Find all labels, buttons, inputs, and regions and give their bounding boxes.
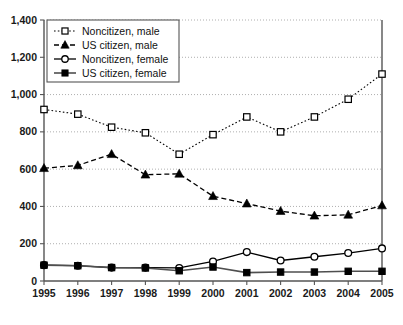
marker-filled-square — [62, 70, 68, 76]
y-tick-label: 800 — [19, 125, 37, 137]
marker-open-square — [41, 106, 47, 112]
marker-filled-square — [41, 262, 47, 268]
marker-filled-square — [108, 264, 114, 270]
chart-legend: Noncitizen, maleUS citizen, maleNoncitiz… — [47, 20, 179, 82]
marker-open-circle — [379, 245, 386, 252]
y-tick-label: 600 — [19, 163, 37, 175]
marker-filled-square — [345, 268, 351, 274]
legend-item-label: US citizen, male — [82, 39, 158, 51]
y-tick-label: 1,000 — [11, 88, 37, 100]
marker-open-square — [345, 96, 351, 102]
x-axis-tick-labels: 1995199619971998199920002001200220032004… — [32, 287, 394, 299]
x-tick-label: 2004 — [337, 287, 361, 299]
x-tick-label: 1998 — [134, 287, 158, 299]
marker-filled-square — [142, 265, 148, 271]
marker-open-square — [311, 114, 317, 120]
marker-open-circle — [311, 253, 318, 260]
marker-open-square — [277, 129, 283, 135]
legend-item-label: US citizen, female — [82, 67, 167, 79]
marker-open-square — [210, 131, 216, 137]
marker-open-circle — [62, 56, 68, 62]
marker-filled-square — [244, 269, 250, 275]
x-tick-label: 1995 — [32, 287, 56, 299]
y-tick-label: 0 — [31, 275, 37, 287]
marker-open-circle — [277, 257, 284, 264]
marker-open-square — [379, 71, 385, 77]
chart-container: 02004006008001,0001,2001,400 19951996199… — [0, 0, 403, 325]
marker-filled-square — [277, 269, 283, 275]
marker-open-square — [62, 28, 68, 34]
marker-filled-square — [176, 268, 182, 274]
x-tick-label: 2005 — [370, 287, 394, 299]
marker-open-square — [108, 124, 114, 130]
x-tick-label: 2001 — [235, 287, 259, 299]
x-tick-label: 1996 — [66, 287, 90, 299]
legend-item-label: Noncitizen, female — [82, 53, 169, 65]
x-tick-label: 1997 — [100, 287, 124, 299]
marker-filled-square — [379, 268, 385, 274]
x-tick-label: 2002 — [269, 287, 293, 299]
marker-filled-square — [75, 263, 81, 269]
marker-filled-square — [210, 264, 216, 270]
y-tick-label: 400 — [19, 200, 37, 212]
marker-open-square — [75, 111, 81, 117]
marker-open-circle — [243, 249, 250, 256]
line-chart: 02004006008001,0001,2001,400 19951996199… — [0, 0, 403, 325]
x-tick-label: 2000 — [201, 287, 225, 299]
y-tick-label: 1,200 — [11, 51, 37, 63]
legend-item-label: Noncitizen, male — [82, 25, 160, 37]
marker-open-square — [142, 130, 148, 136]
y-tick-label: 1,400 — [11, 14, 37, 26]
marker-open-circle — [345, 250, 352, 257]
y-tick-label: 200 — [19, 237, 37, 249]
marker-open-square — [244, 114, 250, 120]
marker-open-square — [176, 151, 182, 157]
marker-filled-square — [311, 269, 317, 275]
x-tick-label: 1999 — [168, 287, 192, 299]
x-tick-label: 2003 — [303, 287, 327, 299]
